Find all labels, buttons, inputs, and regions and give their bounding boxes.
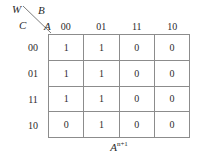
output-caption-base: A <box>110 141 117 153</box>
kmap-cell: 1 <box>49 61 84 86</box>
row-header-1: 01 <box>20 60 46 86</box>
kmap-cell: 0 <box>120 87 155 112</box>
kmap-row: 1 1 0 0 <box>49 61 189 87</box>
kmap-cell: 0 <box>155 61 189 86</box>
variable-label-b: B <box>38 5 45 16</box>
variable-label-c: C <box>19 20 26 31</box>
column-header-1: 01 <box>84 20 120 33</box>
row-header-0: 00 <box>20 34 46 60</box>
kmap-cell: 0 <box>120 61 155 86</box>
column-header-3: 10 <box>155 20 191 33</box>
row-header-3: 10 <box>20 112 46 138</box>
column-header-row: 00 01 11 10 <box>48 20 190 33</box>
kmap-cell: 0 <box>120 112 155 137</box>
kmap-row: 1 1 0 0 <box>49 35 189 61</box>
kmap-cell: 0 <box>120 35 155 60</box>
kmap-cell: 1 <box>49 87 84 112</box>
kmap-row: 0 1 0 0 <box>49 112 189 137</box>
variable-label-w: W <box>12 4 21 15</box>
kmap-cell: 0 <box>155 112 189 137</box>
kmap-row: 1 1 0 0 <box>49 87 189 113</box>
kmap-grid: 1 1 0 0 1 1 0 0 1 1 0 0 0 1 0 0 <box>48 34 190 138</box>
kmap-cell: 0 <box>155 87 189 112</box>
row-header-2: 11 <box>20 86 46 112</box>
output-function-caption: An+1 <box>48 140 190 153</box>
kmap-cell: 1 <box>84 35 119 60</box>
karnaugh-map-figure: W B C A 00 01 11 10 00 01 11 10 1 1 0 0 … <box>0 0 197 161</box>
row-header-column: 00 01 11 10 <box>20 34 46 138</box>
column-header-2: 11 <box>119 20 155 33</box>
kmap-cell: 1 <box>84 87 119 112</box>
kmap-cell: 0 <box>155 35 189 60</box>
kmap-cell: 1 <box>84 61 119 86</box>
kmap-cell: 0 <box>49 112 84 137</box>
output-caption-superscript: n+1 <box>117 140 128 148</box>
kmap-cell: 1 <box>49 35 84 60</box>
column-header-0: 00 <box>48 20 84 33</box>
kmap-cell: 1 <box>84 112 119 137</box>
